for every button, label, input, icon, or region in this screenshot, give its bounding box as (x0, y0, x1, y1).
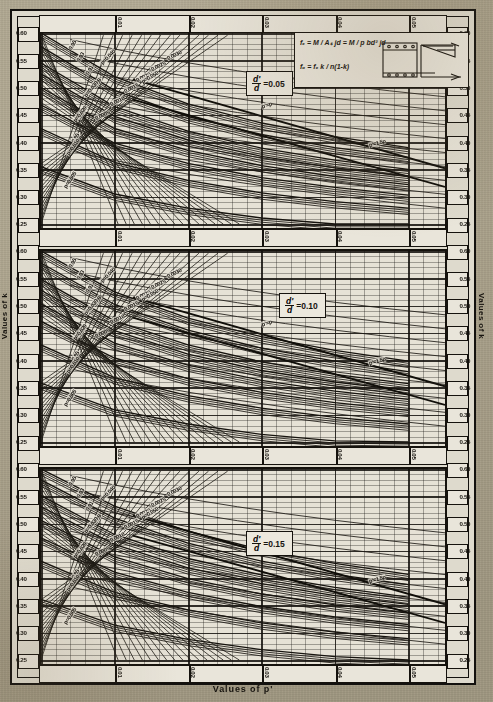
x-tick-label: 0.01 (117, 449, 124, 459)
y-tick-label: 0.55 (460, 275, 470, 282)
y-tick-label: 0.30 (16, 411, 26, 418)
y-axis-title-left: Values of k (0, 293, 9, 339)
y-tick-label: 0.40 (16, 139, 26, 146)
curve-p-0-010 (41, 129, 408, 209)
y-tick-label: 0.30 (460, 411, 470, 418)
x-axis-band-mid-2: 0.010.020.030.040.05 (39, 447, 447, 465)
chart-panel-2: 0.00300.00250.00200.00150.00100.00050.95… (39, 249, 447, 448)
y-tick-label: 0.35 (16, 166, 26, 173)
y-tick-label: 0.35 (460, 166, 470, 173)
y-axis-title-right: Values of k (477, 293, 486, 339)
y-tick-label: 0.40 (16, 357, 26, 364)
y-tick-label: 0.30 (460, 193, 470, 200)
x-axis-band-mid-1: 0.010.020.030.040.05 (39, 229, 447, 247)
curve-p-0-005-sub1 (41, 602, 408, 663)
y-tick-label: 0.55 (16, 493, 26, 500)
y-tick-label: 0.45 (16, 329, 26, 336)
y-tick-label: 0.50 (460, 520, 470, 527)
y-tick-label: 0.50 (460, 302, 470, 309)
x-tick-label: 0.01 (117, 17, 124, 27)
x-axis-title: Values of p' (12, 684, 474, 694)
x-tick-label: 0.03 (264, 449, 271, 459)
y-tick-label: 0.60 (16, 29, 26, 36)
y-tick-label: 0.60 (16, 247, 26, 254)
ray-descending-1 (41, 38, 126, 224)
y-tick-label: 0.60 (16, 465, 26, 472)
x-axis-band-top: 0.010.020.030.040.05 (39, 15, 447, 33)
panel-ratio-label: d'd=0.10 (279, 293, 326, 318)
y-tick-label: 0.25 (460, 220, 470, 227)
y-tick-label: 0.45 (460, 547, 470, 554)
x-tick-label: 0.04 (337, 17, 344, 27)
y-tick-label: 0.35 (16, 384, 26, 391)
x-tick-label: 0.03 (264, 17, 271, 27)
x-tick-label: 0.05 (411, 667, 418, 677)
scanned-chart-page: 0.00300.00250.00200.00150.00100.00050.95… (0, 0, 493, 702)
x-tick-label: 0.05 (411, 17, 418, 27)
x-axis-band-bottom: 0.010.020.030.040.05 (39, 665, 447, 683)
x-tick-label: 0.02 (190, 231, 197, 241)
y-tick-label: 0.40 (460, 575, 470, 582)
x-tick-label: 0.01 (117, 231, 124, 241)
y-tick-label: 0.25 (16, 438, 26, 445)
y-tick-label: 0.60 (460, 247, 470, 254)
formula-1: fₑ = M / Aₛ jd = M / p bd² jd (300, 39, 386, 47)
x-tick-label: 0.02 (190, 667, 197, 677)
formula-2: fₒ = fₑ k / n(1-k) (300, 63, 349, 70)
y-tick-label: 0.25 (16, 656, 26, 663)
panel-ratio-label: d'd=0.15 (246, 531, 293, 556)
y-tick-label: 0.35 (460, 384, 470, 391)
y-tick-label: 0.40 (460, 357, 470, 364)
x-tick-label: 0.01 (117, 667, 124, 677)
plot-area: 0.00300.00250.00200.00150.00100.00050.95… (41, 469, 445, 664)
x-tick-label: 0.05 (411, 231, 418, 241)
y-tick-label: 0.60 (460, 465, 470, 472)
y-tick-label: 0.25 (460, 438, 470, 445)
y-tick-label: 0.25 (16, 220, 26, 227)
x-tick-label: 0.03 (264, 231, 271, 241)
x-tick-label: 0.03 (264, 667, 271, 677)
y-tick-label: 0.50 (16, 302, 26, 309)
y-tick-label: 0.25 (460, 656, 470, 663)
chart-panel-3: 0.00300.00250.00200.00150.00100.00050.95… (39, 467, 447, 666)
beam-section-diagram (377, 37, 465, 84)
y-tick-label: 0.55 (460, 493, 470, 500)
chart-sheet: 0.00300.00250.00200.00150.00100.00050.95… (10, 9, 476, 685)
y-tick-label: 0.55 (16, 57, 26, 64)
y-tick-label: 0.45 (16, 111, 26, 118)
y-tick-label: 0.35 (460, 602, 470, 609)
formula-box: fₑ = M / Aₛ jd = M / p bd² jdfₒ = fₑ k /… (294, 32, 469, 88)
y-tick-label: 0.55 (16, 275, 26, 282)
y-tick-label: 0.30 (16, 629, 26, 636)
x-tick-label: 0.04 (337, 231, 344, 241)
x-tick-label: 0.05 (411, 449, 418, 459)
plot-area: 0.00300.00250.00200.00150.00100.00050.95… (41, 251, 445, 446)
y-tick-label: 0.45 (460, 111, 470, 118)
y-tick-label: 0.50 (16, 520, 26, 527)
y-tick-label: 0.30 (460, 629, 470, 636)
x-tick-label: 0.02 (190, 449, 197, 459)
y-tick-label: 0.35 (16, 602, 26, 609)
x-tick-label: 0.02 (190, 17, 197, 27)
y-tick-label: 0.45 (460, 329, 470, 336)
y-tick-label: 0.50 (16, 84, 26, 91)
line-pprime-eq-1-5p (133, 318, 445, 405)
y-tick-label: 0.40 (460, 139, 470, 146)
panel-ratio-label: d'd=0.05 (246, 71, 293, 96)
y-tick-label: 0.40 (16, 575, 26, 582)
x-tick-label: 0.04 (337, 449, 344, 459)
ray-descending-8 (41, 506, 183, 660)
y-tick-label: 0.30 (16, 193, 26, 200)
x-tick-label: 0.04 (337, 667, 344, 677)
y-tick-label: 0.45 (16, 547, 26, 554)
